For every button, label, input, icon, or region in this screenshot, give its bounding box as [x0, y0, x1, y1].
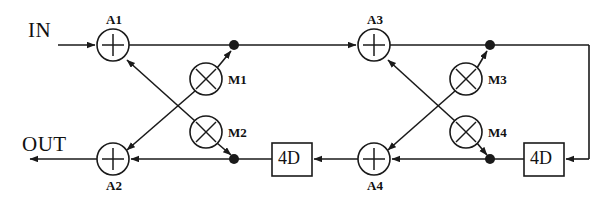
multiplier-m3-label: M3 [488, 73, 507, 86]
input-port-label: IN [28, 20, 51, 41]
adder-a2-label: A2 [106, 179, 122, 192]
wire-m2-to-j2 [217, 143, 231, 155]
signal-flow-diagram: IN OUT A1 A2 A3 A4 M1 M2 M3 M4 4D 4D [0, 0, 614, 205]
wire-m1-to-j1 [217, 51, 231, 68]
diagram-canvas [0, 0, 614, 205]
wire-m4-to-a3 [388, 60, 455, 121]
junction-j4 [485, 154, 495, 164]
adder-a4-label: A4 [367, 179, 383, 192]
adder-a3-label: A3 [367, 13, 383, 26]
wire-m3-to-a4 [388, 91, 455, 150]
adder-a1-label: A1 [106, 13, 122, 26]
junction-j2 [229, 154, 239, 164]
junction-j1 [229, 40, 239, 50]
multiplier-m1-label: M1 [228, 73, 247, 86]
delay-block-d2-label: 4D [530, 149, 552, 167]
wire-m3-to-j3 [477, 51, 487, 68]
wire-m1-to-a2 [127, 91, 195, 150]
wire-m4-to-j4 [477, 143, 487, 155]
multiplier-m2-label: M2 [228, 126, 247, 139]
wire-m2-to-a1 [127, 60, 195, 121]
junction-j3 [485, 40, 495, 50]
multiplier-m4-label: M4 [488, 126, 507, 139]
output-port-label: OUT [22, 134, 67, 155]
delay-block-d1-label: 4D [278, 149, 300, 167]
